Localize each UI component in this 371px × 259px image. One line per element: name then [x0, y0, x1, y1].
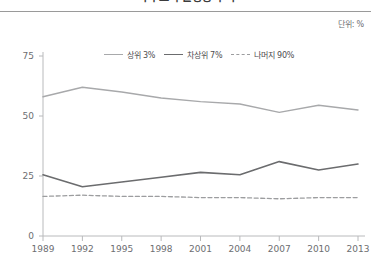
x-axis-tick-label: 2010 — [299, 244, 339, 254]
x-axis-tick-label: 1995 — [102, 244, 142, 254]
x-axis-tick-label: 1989 — [23, 244, 63, 254]
y-axis-tick-label: 50 — [8, 111, 34, 121]
y-axis-tick-label: 25 — [8, 171, 34, 181]
x-axis-tick-label: 1992 — [62, 244, 102, 254]
x-axis-tick-label: 2001 — [181, 244, 221, 254]
series-line-3 — [43, 195, 358, 199]
series-line-2 — [43, 162, 358, 187]
x-axis-tick-label: 1998 — [141, 244, 181, 254]
x-axis-tick-label: 2013 — [338, 244, 371, 254]
y-axis-tick-label: 75 — [8, 51, 34, 61]
series-layer — [43, 87, 358, 199]
axes-layer — [39, 52, 365, 241]
plot-area: 0255075 19891992199519982001200420072010… — [0, 0, 371, 259]
x-axis-tick-label: 2004 — [220, 244, 260, 254]
chart-page: 미국 소득 불평등 추이 단위: % 상위 3% 차상위 7% 나머지 90% … — [0, 0, 371, 259]
x-axis-tick-label: 2007 — [259, 244, 299, 254]
series-line-1 — [43, 87, 358, 112]
y-axis-tick-label: 0 — [8, 231, 34, 241]
chart-svg — [0, 0, 371, 259]
